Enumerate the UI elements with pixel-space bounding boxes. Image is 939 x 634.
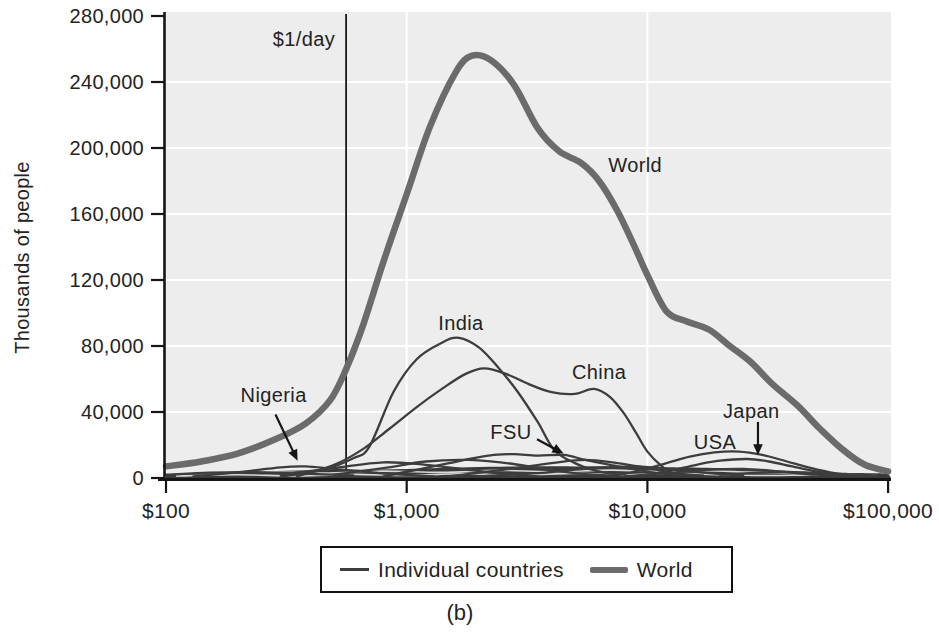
legend-label-world: World bbox=[637, 558, 693, 582]
world-line-swatch bbox=[590, 567, 628, 573]
legend-label-individual-countries: Individual countries bbox=[378, 558, 564, 582]
legend: Individual countries World bbox=[320, 546, 733, 593]
y-axis-title: Thousands of people bbox=[11, 153, 34, 363]
figure-caption: (b) bbox=[415, 600, 505, 626]
income-distribution-figure: 040,00080,000120,000160,000200,000240,00… bbox=[0, 0, 939, 634]
individual-countries-line-swatch bbox=[340, 568, 369, 571]
plot-canvas bbox=[0, 0, 939, 634]
